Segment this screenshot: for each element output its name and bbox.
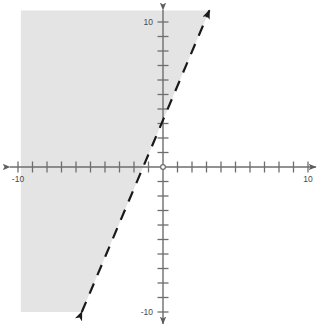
graph-canvas: -10 10 — [0, 0, 325, 332]
coordinate-plane-figure: -10 10 — [0, 0, 325, 332]
y-axis-tick-label-neg10: -10 — [141, 307, 154, 317]
y-axis-tick-label-pos10: 10 — [144, 17, 154, 27]
shaded-solution-region — [21, 10, 210, 312]
x-axis-tick-label-neg10: -10 — [12, 174, 25, 184]
origin-marker — [161, 165, 166, 170]
shaded-region-polygon — [21, 10, 210, 312]
x-axis-tick-label-pos10: 10 — [303, 174, 313, 184]
